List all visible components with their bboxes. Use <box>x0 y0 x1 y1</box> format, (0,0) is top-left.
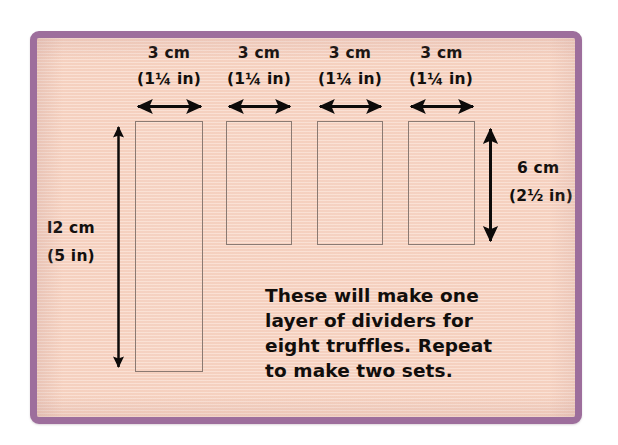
illustration-canvas: 3 cm (1¼ in) 3 cm (1¼ in) 3 cm (1¼ in) 3… <box>0 0 618 445</box>
top-dimension-metric-2: 3 cm <box>226 44 292 62</box>
top-dimension-metric-4: 3 cm <box>408 44 475 62</box>
note-line-2: layer of dividers for <box>265 308 473 334</box>
top-dimension-imperial-3: (1¼ in) <box>310 70 390 88</box>
divider-strip-short-3 <box>408 121 475 245</box>
divider-strip-tall <box>135 121 203 372</box>
note-line-1: These will make one <box>265 283 479 309</box>
divider-strip-short-2 <box>317 121 383 245</box>
top-dimension-imperial-1: (1¼ in) <box>129 70 209 88</box>
right-dimension-metric: 6 cm <box>517 159 559 177</box>
diagram-layer: 3 cm (1¼ in) 3 cm (1¼ in) 3 cm (1¼ in) 3… <box>30 31 582 424</box>
top-dimension-imperial-4: (1¼ in) <box>401 70 481 88</box>
left-dimension-imperial: (5 in) <box>47 247 95 265</box>
divider-strip-short-1 <box>226 121 292 245</box>
note-line-4: to make two sets. <box>265 358 453 384</box>
top-dimension-metric-3: 3 cm <box>317 44 383 62</box>
note-line-3: eight truffles. Repeat <box>265 333 492 359</box>
top-dimension-metric-1: 3 cm <box>135 44 203 62</box>
pattern-mat: 3 cm (1¼ in) 3 cm (1¼ in) 3 cm (1¼ in) 3… <box>30 31 582 424</box>
left-dimension-metric: l2 cm <box>47 219 95 237</box>
right-dimension-imperial: (2½ in) <box>509 187 573 205</box>
top-dimension-imperial-2: (1¼ in) <box>219 70 299 88</box>
